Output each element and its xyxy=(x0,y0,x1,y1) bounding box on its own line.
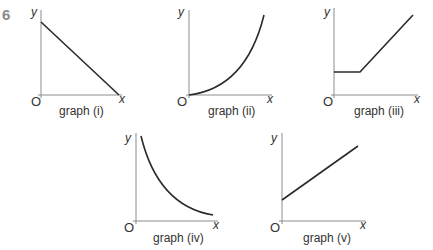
graph-caption: graph (iii) xyxy=(354,104,404,118)
graph-v: y x O graph (v) xyxy=(270,131,367,245)
graph-curve xyxy=(141,136,213,215)
origin-label: O xyxy=(270,220,280,235)
origin-label: O xyxy=(177,94,187,109)
x-axis-label: x xyxy=(118,92,126,106)
question-number: 6 xyxy=(2,6,10,23)
origin-label: O xyxy=(323,94,333,109)
graph-i: y x O graph (i) xyxy=(30,5,126,118)
graph-caption: graph (ii) xyxy=(208,104,255,118)
graph-caption: graph (iv) xyxy=(153,231,204,245)
graph-line xyxy=(334,15,413,72)
y-axis-label: y xyxy=(270,131,278,145)
graph-iii: y x O graph (iii) xyxy=(323,5,421,118)
x-axis-label: x xyxy=(212,218,220,232)
graph-iv: y x O graph (iv) xyxy=(124,131,220,245)
origin-label: O xyxy=(31,94,41,109)
graph-ii: y x O graph (ii) xyxy=(177,5,274,118)
origin-label: O xyxy=(124,220,134,235)
graphs-figure: 6 y x O graph (i) y x O graph (ii) y x O… xyxy=(0,0,433,250)
y-axis-label: y xyxy=(177,5,185,19)
x-axis-label: x xyxy=(266,92,274,106)
y-axis-label: y xyxy=(30,5,38,19)
x-axis-label: x xyxy=(359,218,367,232)
graph-line xyxy=(41,22,119,95)
y-axis-label: y xyxy=(323,5,331,19)
graph-caption: graph (i) xyxy=(59,104,104,118)
graph-line xyxy=(282,146,358,200)
graph-curve xyxy=(189,15,264,95)
y-axis-label: y xyxy=(124,131,132,145)
x-axis-label: x xyxy=(413,92,421,106)
graph-caption: graph (v) xyxy=(303,231,351,245)
